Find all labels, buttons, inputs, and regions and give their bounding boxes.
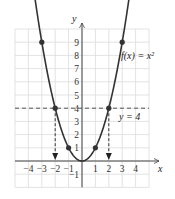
svg-text:−2: −2 (50, 164, 60, 174)
svg-text:5: 5 (74, 91, 79, 101)
svg-text:−4: −4 (23, 164, 33, 174)
line-label: y = 4 (118, 111, 140, 122)
x-axis-label: x (157, 163, 163, 174)
svg-text:3: 3 (74, 117, 79, 127)
svg-text:7: 7 (74, 64, 79, 74)
parabola-chart: −4−3−2−11234−1123456789 f(x) = x² y = 4 … (0, 0, 175, 199)
svg-text:2: 2 (74, 130, 79, 140)
svg-text:1: 1 (93, 164, 98, 174)
svg-text:1: 1 (74, 143, 79, 153)
svg-text:−1: −1 (69, 170, 79, 180)
svg-text:4: 4 (74, 104, 79, 114)
svg-text:6: 6 (74, 77, 79, 87)
svg-text:9: 9 (74, 38, 79, 48)
svg-text:3: 3 (120, 164, 125, 174)
svg-text:8: 8 (74, 51, 79, 61)
svg-text:2: 2 (106, 164, 111, 174)
axes (15, 23, 159, 187)
svg-text:4: 4 (133, 164, 138, 174)
function-label: f(x) = x² (121, 50, 155, 62)
svg-text:−3: −3 (37, 164, 47, 174)
y-axis-label: y (71, 13, 77, 24)
